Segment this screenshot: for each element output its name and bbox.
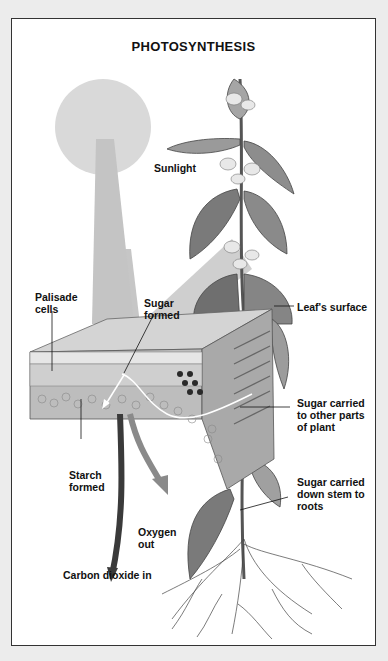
label-sugar-to-other-parts: Sugar carried to other parts of plant: [297, 397, 365, 433]
label-leaf-surface: Leaf's surface: [297, 301, 367, 313]
label-sunlight: Sunlight: [154, 162, 196, 174]
label-palisade-cells: Palisade cells: [35, 291, 78, 315]
label-oxygen-out: Oxygen out: [138, 526, 177, 550]
co2-arrow: [112, 414, 122, 575]
label-starch-formed: Starch formed: [69, 469, 105, 493]
label-sugar-down-stem: Sugar carried down stem to roots: [297, 476, 365, 512]
diagram-frame: PHOTOSYNTHESIS: [11, 18, 376, 646]
photosynthesis-illustration: [12, 19, 376, 646]
label-sugar-formed: Sugar formed: [144, 297, 180, 321]
oxygen-arrow: [130, 414, 160, 481]
label-carbon-dioxide-in: Carbon dioxide in: [63, 569, 152, 581]
